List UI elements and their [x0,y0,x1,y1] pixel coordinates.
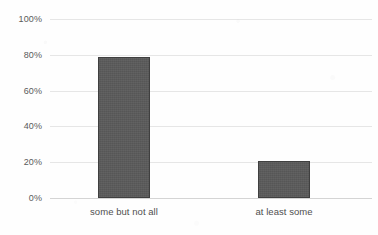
bar-texture [259,162,309,197]
x-tick-label-0: some but not all [90,206,158,217]
y-tick-label-0: 0% [0,193,42,203]
bar-some-but-not-all [98,57,150,198]
gridline-baseline-0 [50,198,372,199]
x-tick-label-1: at least some [255,206,312,217]
y-tick-label-100: 100% [0,14,42,24]
y-axis: 0% 20% 40% 60% 80% 100% [0,0,46,235]
y-tick-label-60: 60% [0,86,42,96]
y-tick-label-80: 80% [0,50,42,60]
bar-chart: 0% 20% 40% 60% 80% 100% some but not all… [0,0,378,235]
bar-at-least-some [258,161,310,198]
x-axis: some but not all at least some [50,206,372,228]
bar-texture [99,58,149,197]
plot-area [50,19,372,198]
y-tick-label-20: 20% [0,157,42,167]
y-tick-label-40: 40% [0,121,42,131]
gridline-100 [50,19,372,20]
